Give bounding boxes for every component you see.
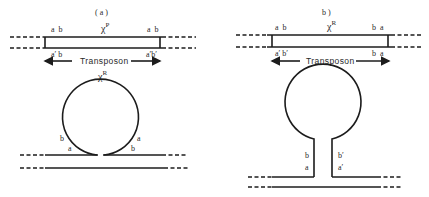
loop-label-right-outer: a bbox=[137, 134, 141, 143]
loop-label-right-inner: b bbox=[131, 144, 135, 153]
label-top-right-upper: b a bbox=[372, 23, 384, 32]
stem-label-left-upper: b bbox=[305, 151, 309, 160]
panel-b: b ) a b b a χR a′ b′ b a Transposon b a … bbox=[236, 8, 421, 187]
transposon-label: Transposon bbox=[80, 56, 129, 66]
label-top-right-lower: a′b′ bbox=[146, 50, 157, 59]
stem-label-right-lower: a′ bbox=[338, 163, 344, 172]
stem-label-right-upper: b′ bbox=[338, 151, 344, 160]
label-top-left-upper: a b bbox=[51, 25, 63, 34]
panel-a-title: ( a ) bbox=[95, 8, 108, 17]
excised-loop bbox=[63, 79, 139, 155]
loop-label-left-inner: a bbox=[68, 144, 72, 153]
label-top-left-lower: a′ b bbox=[51, 50, 62, 59]
stem-label-left-lower: a bbox=[305, 163, 309, 172]
label-top-right-lower: b a bbox=[372, 49, 384, 58]
element-chi-p: χP bbox=[100, 21, 109, 34]
label-top-right-upper: a b bbox=[147, 25, 159, 34]
panel-b-title: b ) bbox=[322, 8, 331, 17]
inverted-loop-with-stem bbox=[285, 64, 361, 177]
panel-a: ( a ) a b a b χP a′ b a′b′ Transposon χR… bbox=[10, 8, 196, 168]
transposon-diagram: ( a ) a b a b χP a′ b a′b′ Transposon χR… bbox=[0, 0, 429, 197]
panel-a-transposon-strands bbox=[10, 37, 196, 48]
element-chi-r: χR bbox=[326, 19, 336, 32]
panel-b-transposon-strands bbox=[236, 35, 421, 47]
loop-label-left-outer: b bbox=[60, 134, 64, 143]
label-top-left-lower: a′ b′ bbox=[275, 49, 288, 58]
label-top-left-upper: a b bbox=[275, 23, 287, 32]
